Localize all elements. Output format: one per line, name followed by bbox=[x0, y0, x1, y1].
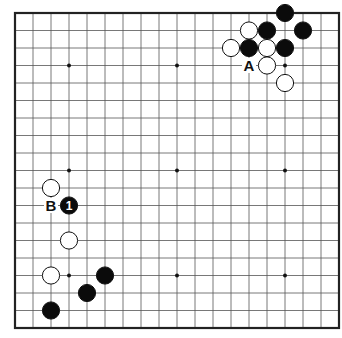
star-point bbox=[175, 169, 179, 173]
white-stone bbox=[42, 267, 59, 284]
white-stone bbox=[42, 179, 59, 196]
white-stone bbox=[240, 22, 257, 39]
star-point bbox=[67, 274, 71, 278]
star-point bbox=[283, 64, 287, 68]
black-stone bbox=[276, 4, 293, 21]
point-label-b: B bbox=[46, 197, 57, 214]
black-stone bbox=[276, 39, 293, 56]
star-point bbox=[283, 274, 287, 278]
white-stone bbox=[222, 39, 239, 56]
black-stone bbox=[78, 284, 95, 301]
black-stone bbox=[294, 22, 311, 39]
white-stone bbox=[60, 232, 77, 249]
black-stone bbox=[258, 22, 275, 39]
black-stone bbox=[42, 302, 59, 319]
white-stone bbox=[258, 39, 275, 56]
white-stone bbox=[258, 57, 275, 74]
star-point bbox=[175, 64, 179, 68]
black-stone bbox=[96, 267, 113, 284]
move-number: 1 bbox=[66, 199, 73, 213]
star-point bbox=[283, 169, 287, 173]
go-board: AB 1 bbox=[0, 0, 342, 338]
star-point bbox=[67, 169, 71, 173]
white-stone bbox=[276, 74, 293, 91]
star-point bbox=[67, 64, 71, 68]
black-stone bbox=[240, 39, 257, 56]
star-point bbox=[175, 274, 179, 278]
point-labels: AB bbox=[44, 57, 256, 214]
black-stone: 1 bbox=[60, 197, 77, 214]
point-label-a: A bbox=[244, 57, 255, 74]
